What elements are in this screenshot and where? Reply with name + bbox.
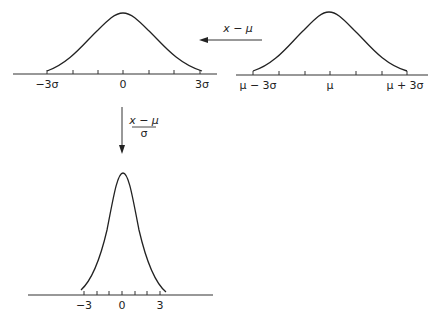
original-tick-label-mu-plus-3sigma: μ + 3σ [386,79,423,92]
standardized-tick-label-3: 3 [157,299,164,312]
centered-tick-label-zero: 0 [120,78,127,91]
standardized-tick-label-zero: 0 [119,299,126,312]
scale-label-denominator: σ [141,127,148,140]
original-curve [253,12,407,71]
scale-label-numerator: x − μ [128,114,159,127]
shift-label: x − μ [222,22,253,35]
standardized-panel: −3 0 3 [28,173,213,312]
original-panel: μ − 3σ μ μ + 3σ [236,12,428,92]
standardized-curve [81,173,166,292]
centered-panel: −3σ 0 3σ [13,13,217,91]
shift-transform: x − μ [199,22,262,43]
original-tick-label-mu: μ [327,79,334,92]
centered-tick-label-3sigma: 3σ [195,78,209,91]
arrow-down-icon [119,145,125,154]
normal-standardization-diagram: −3σ 0 3σ μ − 3σ μ μ + 3σ x − μ x − μ σ [0,0,433,322]
standardized-tick-label-minus3: −3 [76,299,92,312]
arrow-left-icon [199,37,208,43]
original-tick-label-mu-minus-3sigma: μ − 3σ [239,79,276,92]
centered-tick-label-minus3sigma: −3σ [35,78,58,91]
scale-transform: x − μ σ [119,107,159,154]
centered-curve [47,13,202,71]
